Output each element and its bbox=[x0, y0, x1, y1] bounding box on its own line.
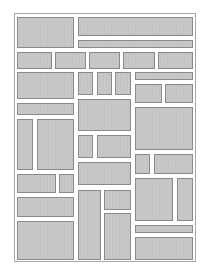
layout-block-23 bbox=[78, 162, 131, 185]
layout-block-20 bbox=[135, 107, 193, 150]
layout-block-9 bbox=[17, 72, 74, 99]
layout-block-11 bbox=[97, 72, 112, 95]
layout-block-15 bbox=[165, 84, 193, 103]
layout-block-34 bbox=[177, 178, 193, 221]
layout-block-29 bbox=[17, 221, 74, 260]
layout-block-1 bbox=[17, 17, 74, 48]
layout-block-7 bbox=[123, 52, 155, 69]
layout-block-35 bbox=[135, 225, 193, 233]
layout-block-22 bbox=[97, 135, 131, 158]
layout-block-17 bbox=[17, 119, 33, 170]
layout-block-10 bbox=[78, 72, 93, 95]
layout-block-25 bbox=[154, 154, 193, 174]
layout-block-31 bbox=[104, 190, 131, 210]
layout-block-30 bbox=[78, 190, 101, 260]
layout-block-26 bbox=[17, 174, 56, 193]
layout-block-19 bbox=[78, 99, 131, 131]
layout-block-8 bbox=[158, 52, 193, 69]
layout-block-4 bbox=[17, 52, 52, 69]
layout-block-13 bbox=[135, 72, 193, 80]
layout-block-24 bbox=[135, 154, 150, 174]
layout-block-12 bbox=[115, 72, 131, 95]
layout-block-32 bbox=[104, 213, 131, 260]
layout-block-21 bbox=[78, 135, 93, 158]
layout-block-5 bbox=[55, 52, 86, 69]
layout-block-36 bbox=[135, 237, 193, 260]
layout-block-33 bbox=[135, 178, 173, 221]
layout-block-14 bbox=[135, 84, 162, 103]
layout-block-6 bbox=[89, 52, 120, 69]
layout-block-16 bbox=[17, 103, 74, 115]
layout-block-3 bbox=[78, 40, 193, 48]
layout-block-28 bbox=[17, 197, 74, 217]
layout-block-18 bbox=[37, 119, 74, 170]
layout-block-2 bbox=[78, 17, 193, 36]
layout-block-27 bbox=[59, 174, 74, 193]
